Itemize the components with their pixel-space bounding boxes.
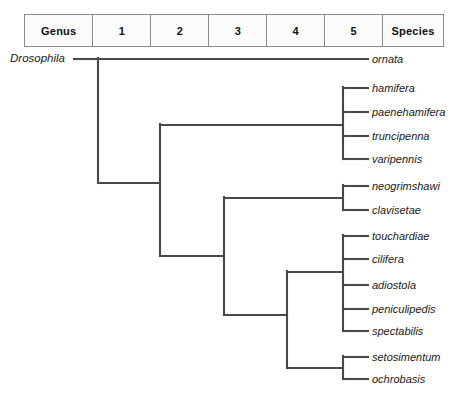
tip-label-varipennis: varipennis [372,153,422,165]
tip-label-peniculipedis: peniculipedis [372,303,436,315]
tip-label-ornata: ornata [372,53,403,65]
tip-label-paenehamifera: paenehamifera [372,106,445,118]
tip-label-truncipenna: truncipenna [372,130,430,142]
tip-label-cilifera: cilifera [372,253,404,265]
cladogram-figure: Genus 1 2 3 4 5 Species [0,0,461,397]
tip-label-setosimentum: setosimentum [372,351,440,363]
tip-label-hamifera: hamifera [372,82,415,94]
tip-label-ochrobasis: ochrobasis [372,373,425,385]
tip-label-clavisetae: clavisetae [372,204,421,216]
tip-label-neogrimshawi: neogrimshawi [372,180,440,192]
tip-label-touchardiae: touchardiae [372,230,430,242]
genus-label-drosophila: Drosophila [10,52,65,64]
tip-label-spectabilis: spectabilis [372,325,423,337]
tip-label-adiostola: adiostola [372,279,416,291]
